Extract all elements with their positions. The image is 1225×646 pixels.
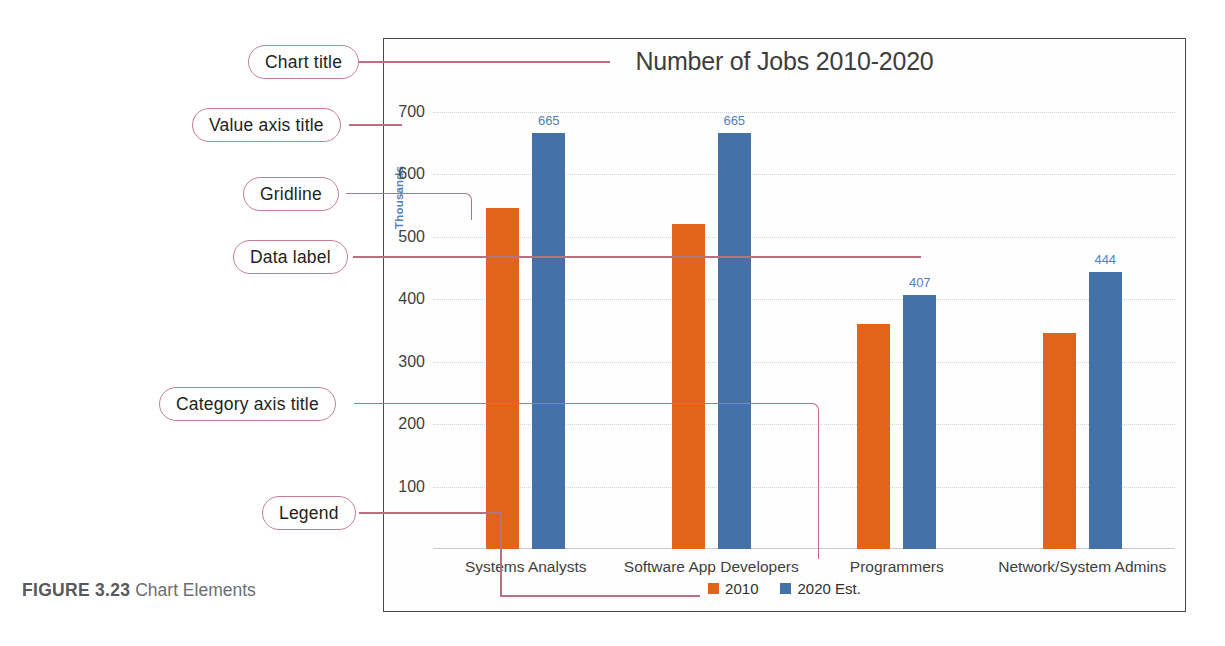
leader-category-axis-title <box>354 403 819 559</box>
legend-item[interactable]: 2020 Est. <box>780 580 860 597</box>
data-label: 444 <box>1094 252 1116 267</box>
callout-value-axis-title[interactable]: Value axis title <box>192 108 341 142</box>
callout-gridline-label: Gridline <box>260 184 322 205</box>
bar-2020[interactable]: 407 <box>903 295 936 549</box>
category-axis-label: Network/System Admins <box>998 558 1166 576</box>
figure-caption-text: Chart Elements <box>135 580 256 600</box>
data-label: 407 <box>909 275 931 290</box>
y-axis-tick-label: 700 <box>398 103 425 121</box>
legend-label: 2020 Est. <box>797 580 860 597</box>
callout-gridline[interactable]: Gridline <box>243 177 339 211</box>
callout-category-axis-title-label: Category axis title <box>176 394 319 415</box>
bar-group: 407Programmers <box>804 99 990 549</box>
callout-legend-label: Legend <box>279 503 339 524</box>
leader-legend-vertical <box>500 512 502 596</box>
figure-caption: FIGURE 3.23 Chart Elements <box>22 580 256 601</box>
legend-label: 2010 <box>725 580 758 597</box>
figure-number: FIGURE 3.23 <box>22 580 130 600</box>
legend-swatch <box>780 583 791 594</box>
callout-data-label-label: Data label <box>250 247 331 268</box>
data-label: 665 <box>723 113 745 128</box>
bar-group: 444Network/System Admins <box>990 99 1176 549</box>
legend-swatch <box>708 583 719 594</box>
callout-chart-title-label: Chart title <box>265 52 342 73</box>
leader-legend <box>359 512 501 514</box>
y-axis-tick-label: 300 <box>398 353 425 371</box>
callout-legend[interactable]: Legend <box>262 496 356 530</box>
leader-value-axis-title <box>349 124 402 126</box>
leader-chart-title <box>350 61 610 63</box>
legend-item[interactable]: 2010 <box>708 580 758 597</box>
data-label: 665 <box>538 113 560 128</box>
y-axis-tick-label: 500 <box>398 228 425 246</box>
callout-data-label[interactable]: Data label <box>233 240 348 274</box>
bar-2010[interactable] <box>1043 333 1076 549</box>
figure-canvas: Chart title Value axis title Gridline Da… <box>0 0 1225 646</box>
category-axis-label: Systems Analysts <box>465 558 586 576</box>
y-axis-tick-label: 400 <box>398 290 425 308</box>
bar-2020[interactable]: 444 <box>1089 272 1122 550</box>
bar-2010[interactable] <box>857 324 890 549</box>
leader-legend-to-swatch <box>500 595 700 597</box>
category-axis-label: Programmers <box>850 558 944 576</box>
y-axis-tick-label: 600 <box>398 165 425 183</box>
leader-gridline <box>346 193 472 220</box>
callout-value-axis-title-label: Value axis title <box>209 115 324 136</box>
callout-category-axis-title[interactable]: Category axis title <box>159 387 336 421</box>
category-axis-label: Software App Developers <box>624 558 799 576</box>
callout-chart-title[interactable]: Chart title <box>248 45 359 79</box>
leader-data-label <box>353 256 921 258</box>
